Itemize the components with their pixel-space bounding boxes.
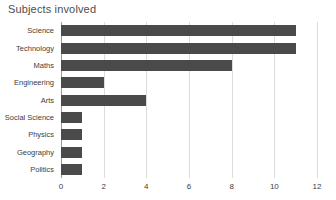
y-axis-label: Social Science (0, 112, 54, 123)
bar (61, 147, 82, 158)
bar (61, 25, 296, 36)
y-axis-label: Engineering (0, 77, 54, 88)
x-axis-tick-labels: 024681012 (0, 181, 336, 195)
bar-fill (61, 164, 82, 175)
bar (61, 77, 104, 88)
bar (61, 43, 296, 54)
gridline (317, 22, 318, 178)
plot-area (61, 22, 317, 178)
x-axis-tick-label: 2 (92, 181, 116, 193)
y-axis-label: Technology (0, 43, 54, 54)
bar-fill (61, 147, 82, 158)
y-axis-label: Physics (0, 129, 54, 140)
bar-fill (61, 25, 296, 36)
bar (61, 164, 82, 175)
x-axis-tick-label: 8 (220, 181, 244, 193)
y-axis-label: Maths (0, 60, 54, 71)
bar-fill (61, 95, 146, 106)
bar-fill (61, 129, 82, 140)
bar-fill (61, 60, 232, 71)
bar (61, 60, 232, 71)
bar (61, 112, 82, 123)
bar (61, 129, 82, 140)
x-axis-tick-label: 10 (262, 181, 286, 193)
y-axis-label: Arts (0, 95, 54, 106)
y-axis-category-labels: ScienceTechnologyMathsEngineeringArtsSoc… (0, 22, 57, 178)
x-axis-tick-label: 12 (305, 181, 329, 193)
bar (61, 95, 146, 106)
x-axis-tick-label: 4 (134, 181, 158, 193)
bar-fill (61, 43, 296, 54)
y-axis-label: Science (0, 25, 54, 36)
x-axis-tick-label: 6 (177, 181, 201, 193)
bar-fill (61, 77, 104, 88)
chart-title: Subjects involved (8, 3, 96, 15)
x-axis-tick-label: 0 (49, 181, 73, 193)
bar-fill (61, 112, 82, 123)
bar-chart: Subjects involved ScienceTechnologyMaths… (0, 0, 336, 200)
y-axis-label: Geography (0, 147, 54, 158)
y-axis-label: Politics (0, 164, 54, 175)
